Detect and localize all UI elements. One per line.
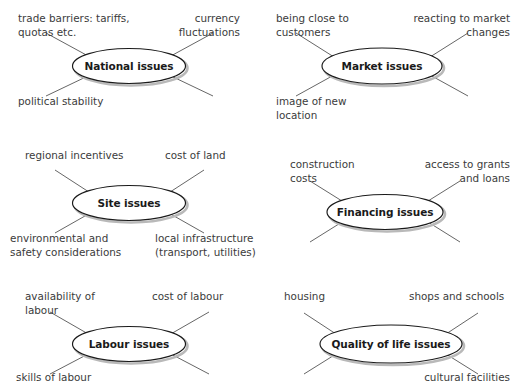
leaf-housing: housing (284, 289, 374, 303)
leaf-reacting-to-market-changes: reacting to market changes (382, 11, 510, 40)
panel-site: Site issues regional incentives cost of … (0, 146, 258, 276)
node-label-site: Site issues (49, 198, 209, 209)
leaf-currency-fluctuations: currency fluctuations (128, 11, 240, 40)
leaf-availability-of-labour: availability of labour (25, 289, 135, 318)
node-label-financing: Financing issues (305, 207, 465, 218)
spoke-bottom-left (304, 354, 336, 374)
spoke-top-left (55, 170, 92, 194)
leaf-shops-and-schools: shops and schools (409, 289, 513, 303)
leaf-skills-of-labour: skills of labour (16, 370, 146, 384)
node-label-labour: Labour issues (49, 339, 209, 350)
panel-market: Market issues being close to customers r… (272, 0, 513, 130)
panel-national: National issues trade barriers: tariffs,… (0, 0, 258, 130)
leaf-regional-incentives: regional incentives (25, 148, 165, 162)
node-label-market: Market issues (302, 61, 462, 72)
leaf-environmental-safety: environmental and safety considerations (10, 231, 160, 260)
leaf-construction-costs: construction costs (290, 157, 400, 186)
node-label-national: National issues (49, 61, 209, 72)
leaf-local-infrastructure: local infrastructure (transport, utiliti… (155, 231, 265, 260)
leaf-access-to-grants: access to grants and loans (390, 157, 510, 186)
spoke-bottom-left (296, 75, 334, 96)
panel-labour: Labour issues availability of labour cos… (0, 288, 258, 390)
node-label-quality-of-life: Quality of life issues (301, 339, 481, 350)
spoke-top-right (446, 313, 478, 334)
leaf-cost-of-labour: cost of labour (152, 289, 252, 303)
spoke-bottom-left (310, 222, 342, 242)
spider-diagram-canvas: National issues trade barriers: tariffs,… (0, 0, 513, 390)
panel-financing: Financing issues construction costs acce… (272, 146, 513, 276)
spoke-top-left (304, 313, 336, 334)
leaf-image-of-new-location: image of new location (276, 94, 406, 123)
leaf-being-close-to-customers: being close to customers (276, 11, 396, 40)
leaf-cost-of-land: cost of land (165, 148, 255, 162)
spoke-bottom-right (167, 212, 204, 233)
panel-quality-of-life: Quality of life issues housing shops and… (272, 288, 513, 390)
spoke-top-right (169, 312, 209, 335)
leaf-political-stability: political stability (18, 94, 168, 108)
spoke-top-right (167, 170, 204, 194)
leaf-cultural-facilities: cultural facilities (392, 370, 510, 384)
